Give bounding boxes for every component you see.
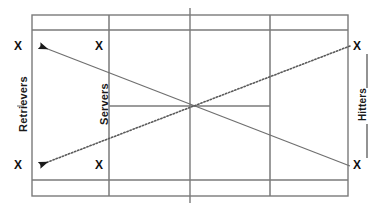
player-mark-retriever-top: X [14,40,22,52]
tennis-court-diagram: X X X X X X Retrievers Servers Hitters [0,0,381,211]
group-label-servers-text: Servers [98,59,110,149]
court-lines [32,8,348,203]
player-mark-retriever-bottom: X [14,159,22,171]
group-label-retrievers: Retrievers [17,59,29,149]
player-mark-server-top: X [95,40,103,52]
player-mark-hitter-top: X [353,40,361,52]
player-mark-server-bottom: X [95,159,103,171]
group-label-hitters-text: Hitters [357,65,368,145]
group-label-retrievers-text: Retrievers [17,59,29,149]
court-graphic [0,0,381,211]
player-mark-hitter-bottom: X [353,159,361,171]
group-label-hitters: Hitters [357,65,368,145]
group-label-servers: Servers [98,59,110,149]
